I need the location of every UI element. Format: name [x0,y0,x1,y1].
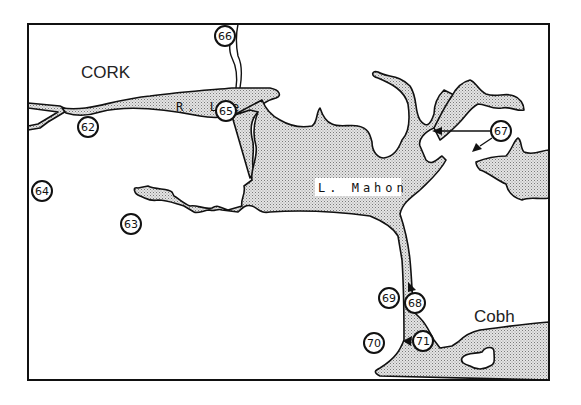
site-marker-65[interactable]: 65 [216,101,236,121]
svg-text:64: 64 [35,185,49,198]
site-marker-68[interactable]: 68 [405,293,425,313]
site-marker-62[interactable]: 62 [78,117,98,137]
svg-text:68: 68 [408,297,422,310]
svg-text:70: 70 [367,337,381,350]
arrow-67-southwest-line [480,138,492,146]
place-label-cork: CORK [81,63,131,82]
svg-text:65: 65 [219,105,233,118]
east-water [476,138,549,200]
river-lee-water [28,103,68,130]
site-marker-64[interactable]: 64 [32,181,52,201]
svg-text:63: 63 [124,218,138,231]
site-marker-67[interactable]: 67 [491,121,511,141]
map-canvas: CORK Cobh R. Lee L. Mahon 62 63 64 65 66… [0,0,581,405]
svg-text:71: 71 [416,335,430,348]
place-label-cobh: Cobh [474,307,515,326]
arrow-67-southwest-head [472,143,482,152]
water-label-lough-mahon: L. Mahon [318,181,408,195]
site-marker-70[interactable]: 70 [364,333,384,353]
site-marker-66[interactable]: 66 [215,26,235,46]
svg-text:69: 69 [382,292,396,305]
svg-text:62: 62 [81,121,95,134]
lough-mahon-water [134,72,549,380]
site-marker-71[interactable]: 71 [413,331,433,351]
svg-text:67: 67 [494,125,508,138]
site-marker-69[interactable]: 69 [379,288,399,308]
svg-text:66: 66 [218,30,232,43]
site-marker-63[interactable]: 63 [121,214,141,234]
